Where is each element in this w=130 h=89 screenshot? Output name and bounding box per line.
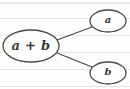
node-ellipse-a: [90, 10, 126, 32]
node-ellipse-root: [3, 30, 59, 62]
diagram-canvas: a + b a b: [0, 0, 130, 89]
edge-root-to-a: [57, 27, 92, 40]
node-group: [3, 10, 126, 84]
edge-root-to-b: [57, 53, 92, 67]
edge-group: [57, 27, 92, 67]
expression-tree-graphic: [0, 0, 130, 89]
node-ellipse-b: [90, 62, 126, 84]
